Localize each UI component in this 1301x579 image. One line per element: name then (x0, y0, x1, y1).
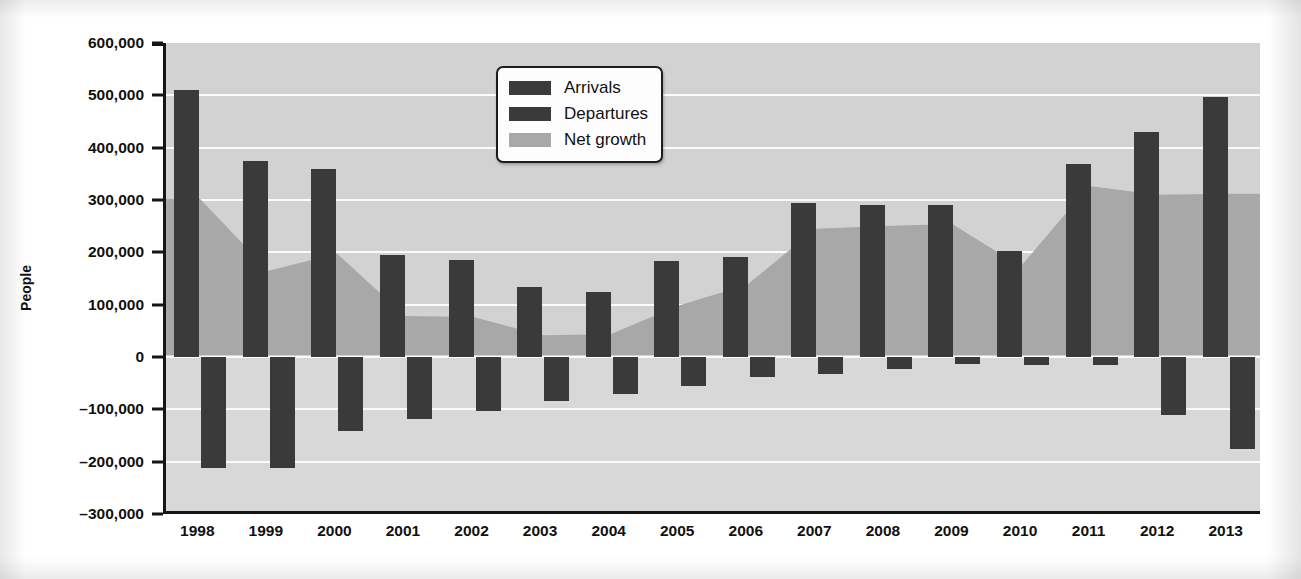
x-axis-tick-label: 2008 (866, 522, 900, 540)
departures-bar (750, 357, 775, 377)
page-edge-shading-top (0, 0, 1301, 18)
departures-bar (681, 357, 706, 386)
legend-label: Departures (564, 104, 648, 124)
x-axis-tick-label: 1998 (180, 522, 214, 540)
legend-item: Departures (509, 101, 648, 127)
arrivals-bar (654, 261, 679, 357)
y-axis-tick-mark (152, 513, 163, 516)
arrivals-bar (1134, 132, 1159, 357)
arrivals-bar (791, 203, 816, 357)
departures-bar (201, 357, 226, 468)
departures-bar (1161, 357, 1186, 415)
arrivals-bar (311, 169, 336, 357)
departures-bar (1024, 357, 1049, 365)
y-axis-tick-label: 500,000 (56, 86, 144, 104)
legend-color-swatch (509, 133, 551, 147)
x-axis-tick-label: 1999 (249, 522, 283, 540)
arrivals-bar (860, 205, 885, 357)
arrivals-bar (517, 287, 542, 357)
y-axis-tick-label: 0 (56, 348, 144, 366)
page-edge-shading-bottom (0, 557, 1301, 579)
y-axis-tick-mark (152, 199, 163, 202)
x-axis-tick-label: 2006 (729, 522, 763, 540)
x-axis-tick-label: 2010 (1003, 522, 1037, 540)
departures-bar (955, 357, 980, 364)
plot-area (163, 43, 1260, 514)
y-axis-tick-mark (152, 408, 163, 411)
legend-label: Net growth (564, 130, 646, 150)
y-axis-tick-mark (152, 42, 163, 45)
page-edge-shading-right (1267, 0, 1301, 579)
departures-bar (476, 357, 501, 411)
arrivals-bar (586, 292, 611, 357)
arrivals-bar (997, 251, 1022, 357)
y-axis-title-label: People (18, 265, 34, 311)
departures-bar (613, 357, 638, 394)
legend-color-swatch (509, 107, 551, 121)
legend-item: Arrivals (509, 75, 648, 101)
y-axis-tick-labels: 600,000500,000400,000300,000200,000100,0… (56, 0, 144, 579)
y-axis-tick-mark (152, 356, 163, 359)
departures-bar (887, 357, 912, 369)
x-axis-tick-label: 2003 (523, 522, 557, 540)
y-axis-tick-label: –200,000 (56, 453, 144, 471)
y-axis-tick-label: 300,000 (56, 191, 144, 209)
y-axis-ticks (163, 43, 175, 514)
x-axis-tick-label: 2002 (454, 522, 488, 540)
arrivals-bar (174, 90, 199, 357)
chart-legend: ArrivalsDeparturesNet growth (496, 66, 663, 163)
departures-bar (270, 357, 295, 468)
arrivals-bar (1066, 164, 1091, 357)
arrivals-bar (723, 257, 748, 357)
departures-bar (544, 357, 569, 401)
departures-bar (818, 357, 843, 374)
legend-color-swatch (509, 81, 551, 95)
x-axis-tick-label: 2012 (1140, 522, 1174, 540)
y-axis-tick-mark (152, 303, 163, 306)
x-axis-tick-label: 2007 (797, 522, 831, 540)
y-axis-tick-label: 200,000 (56, 243, 144, 261)
legend-item: Net growth (509, 127, 648, 153)
y-axis-tick-mark (152, 94, 163, 97)
departures-bar (407, 357, 432, 419)
y-axis-tick-label: 400,000 (56, 139, 144, 157)
y-axis-tick-mark (152, 146, 163, 149)
x-axis-tick-label: 2009 (934, 522, 968, 540)
x-axis-tick-label: 2004 (591, 522, 625, 540)
x-axis-tick-label: 2000 (317, 522, 351, 540)
departures-bar (338, 357, 363, 431)
y-axis-tick-label: 100,000 (56, 296, 144, 314)
arrivals-bar (1203, 97, 1228, 357)
y-axis-tick-label: 600,000 (56, 34, 144, 52)
departures-bar (1230, 357, 1255, 449)
x-axis-tick-labels: 1998199920002001200220032004200520062007… (163, 522, 1260, 556)
y-axis-title: People (14, 248, 38, 328)
arrivals-bar (449, 260, 474, 357)
x-axis-tick-label: 2001 (386, 522, 420, 540)
x-axis-tick-label: 2013 (1208, 522, 1242, 540)
y-axis-tick-label: –300,000 (56, 505, 144, 523)
plot-inner (166, 43, 1260, 511)
x-axis-tick-label: 2011 (1072, 522, 1106, 540)
y-axis-tick-label: –100,000 (56, 400, 144, 418)
departures-bar (1093, 357, 1118, 365)
legend-label: Arrivals (564, 78, 621, 98)
y-axis-tick-mark (152, 460, 163, 463)
y-axis-tick-mark (152, 251, 163, 254)
migration-chart-figure: People 600,000500,000400,000300,000200,0… (0, 0, 1301, 579)
arrivals-bar (380, 255, 405, 357)
arrivals-bar (243, 161, 268, 357)
x-axis-tick-label: 2005 (660, 522, 694, 540)
arrivals-bar (928, 205, 953, 357)
